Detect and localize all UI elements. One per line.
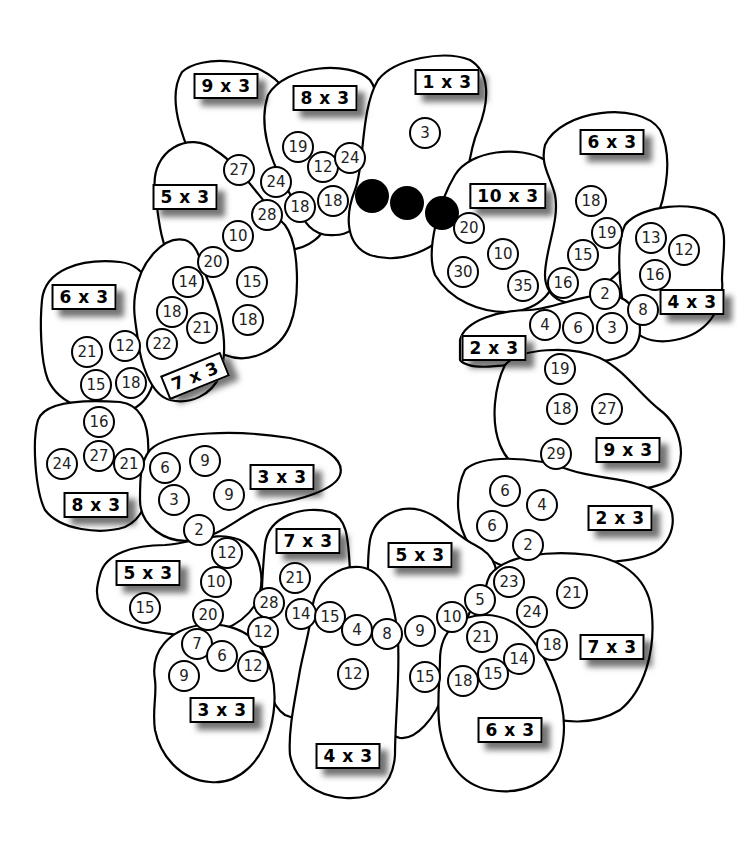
multiplication-label: 1 x 3 [415, 69, 480, 95]
number-circle[interactable]: 16 [83, 406, 115, 438]
number-circle[interactable]: 12 [337, 658, 369, 690]
number-circle[interactable]: 4 [529, 309, 561, 341]
number-circle[interactable]: 18 [156, 296, 188, 328]
multiplication-label: 4 x 3 [316, 743, 381, 769]
number-circle[interactable]: 6 [489, 475, 521, 507]
black-dot-icon [425, 196, 459, 230]
number-circle[interactable]: 10 [487, 238, 519, 270]
number-circle[interactable]: 16 [547, 267, 579, 299]
number-circle[interactable]: 18 [546, 393, 578, 425]
number-circle[interactable]: 14 [285, 598, 317, 630]
multiplication-label: 6 x 3 [478, 717, 543, 743]
multiplication-label: 5 x 3 [116, 560, 181, 586]
multiplication-coloring-worksheet: 1 x 338 x 319122418189 x 32724285 x 3102… [0, 0, 737, 842]
number-circle[interactable]: 10 [436, 601, 468, 633]
multiplication-label: 6 x 3 [52, 284, 117, 310]
number-circle[interactable]: 6 [149, 452, 181, 484]
number-circle[interactable]: 2 [512, 529, 544, 561]
number-circle[interactable]: 15 [80, 369, 112, 401]
number-circle[interactable]: 28 [251, 199, 283, 231]
number-circle[interactable]: 27 [223, 154, 255, 186]
number-circle[interactable]: 21 [279, 562, 311, 594]
number-circle[interactable]: 27 [83, 440, 115, 472]
number-circle[interactable]: 35 [507, 270, 539, 302]
number-circle[interactable]: 15 [236, 266, 268, 298]
multiplication-label: 9 x 3 [194, 73, 259, 99]
multiplication-label: 3 x 3 [250, 464, 315, 490]
number-circle[interactable]: 15 [409, 661, 441, 693]
multiplication-label: 6 x 3 [580, 129, 645, 155]
black-dot-icon [355, 179, 389, 213]
number-circle[interactable]: 3 [158, 484, 190, 516]
number-circle[interactable]: 3 [409, 117, 441, 149]
number-circle[interactable]: 9 [213, 479, 245, 511]
number-circle[interactable]: 12 [668, 234, 700, 266]
number-circle[interactable]: 24 [260, 166, 292, 198]
number-circle[interactable]: 12 [237, 650, 269, 682]
black-dot-icon [390, 186, 424, 220]
number-circle[interactable]: 18 [232, 304, 264, 336]
number-circle[interactable]: 12 [247, 616, 279, 648]
number-circle[interactable]: 6 [476, 510, 508, 542]
multiplication-label: 2 x 3 [588, 505, 653, 531]
number-circle[interactable]: 18 [284, 191, 316, 223]
number-circle[interactable]: 20 [192, 599, 224, 631]
number-circle[interactable]: 13 [635, 222, 667, 254]
multiplication-label: 8 x 3 [64, 492, 129, 518]
number-circle[interactable]: 21 [113, 448, 145, 480]
number-circle[interactable]: 19 [591, 217, 623, 249]
number-circle[interactable]: 9 [404, 615, 436, 647]
number-circle[interactable]: 22 [146, 328, 178, 360]
number-circle[interactable]: 4 [526, 489, 558, 521]
number-circle[interactable]: 30 [447, 256, 479, 288]
multiplication-label: 10 x 3 [469, 183, 546, 209]
number-circle[interactable]: 6 [206, 640, 238, 672]
number-circle[interactable]: 5 [464, 584, 496, 616]
number-circle[interactable]: 18 [317, 185, 349, 217]
multiplication-label: 5 x 3 [153, 184, 218, 210]
number-circle[interactable]: 12 [211, 537, 243, 569]
number-circle[interactable]: 23 [493, 566, 525, 598]
number-circle[interactable]: 19 [544, 353, 576, 385]
number-circle[interactable]: 6 [562, 312, 594, 344]
number-circle[interactable]: 8 [371, 618, 403, 650]
number-circle[interactable]: 21 [466, 621, 498, 653]
number-circle[interactable]: 9 [168, 660, 200, 692]
number-circle[interactable]: 2 [183, 514, 215, 546]
number-circle[interactable]: 15 [567, 239, 599, 271]
number-circle[interactable]: 21 [186, 312, 218, 344]
number-circle[interactable]: 28 [253, 587, 285, 619]
number-circle[interactable]: 29 [540, 438, 572, 470]
number-circle[interactable]: 15 [129, 592, 161, 624]
multiplication-label: 8 x 3 [293, 85, 358, 111]
number-circle[interactable]: 15 [477, 658, 509, 690]
multiplication-label: 7 x 3 [580, 634, 645, 660]
number-circle[interactable]: 3 [596, 312, 628, 344]
number-circle[interactable]: 9 [189, 445, 221, 477]
number-circle[interactable]: 14 [172, 266, 204, 298]
multiplication-label: 4 x 3 [660, 289, 725, 315]
number-circle[interactable]: 21 [556, 577, 588, 609]
multiplication-label: 3 x 3 [190, 697, 255, 723]
number-circle[interactable]: 24 [334, 142, 366, 174]
number-circle[interactable]: 27 [591, 393, 623, 425]
number-circle[interactable]: 10 [200, 566, 232, 598]
number-circle[interactable]: 18 [536, 629, 568, 661]
multiplication-label: 5 x 3 [388, 542, 453, 568]
number-circle[interactable]: 18 [575, 185, 607, 217]
number-circle[interactable]: 18 [447, 665, 479, 697]
number-circle[interactable]: 12 [109, 330, 141, 362]
number-circle[interactable]: 24 [46, 448, 78, 480]
multiplication-label: 9 x 3 [596, 437, 661, 463]
number-circle[interactable]: 4 [341, 614, 373, 646]
number-circle[interactable]: 21 [71, 336, 103, 368]
number-circle[interactable]: 8 [627, 294, 659, 326]
multiplication-label: 7 x 3 [276, 528, 341, 554]
number-circle[interactable]: 16 [639, 259, 671, 291]
multiplication-label: 2 x 3 [462, 335, 527, 361]
number-circle[interactable]: 2 [589, 278, 621, 310]
number-circle[interactable]: 24 [516, 596, 548, 628]
number-circle[interactable]: 18 [115, 367, 147, 399]
number-circle[interactable]: 10 [222, 220, 254, 252]
